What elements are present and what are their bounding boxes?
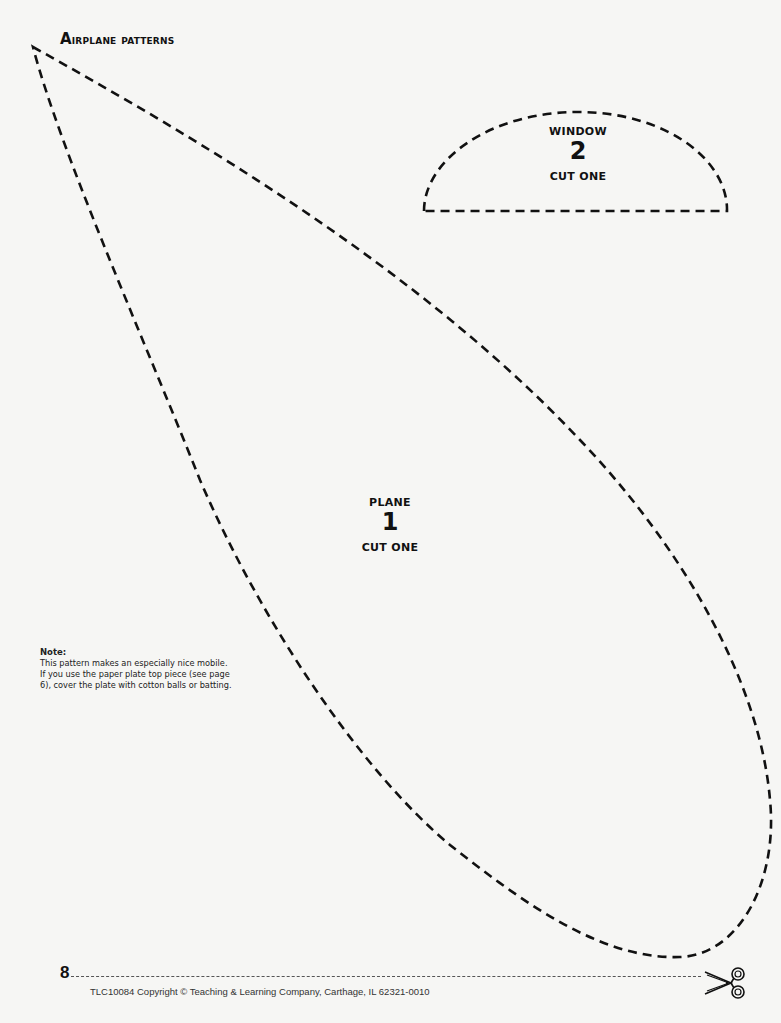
window-number: 2 bbox=[518, 138, 638, 164]
note-line: This pattern makes an especially nice mo… bbox=[40, 658, 270, 669]
plane-label: PLANE 1 CUT ONE bbox=[330, 496, 450, 554]
window-instruction: CUT ONE bbox=[518, 170, 638, 183]
plane-instruction: CUT ONE bbox=[330, 541, 450, 554]
copyright: TLC10084 Copyright © Teaching & Learning… bbox=[90, 986, 430, 997]
note: Note: This pattern makes an especially n… bbox=[40, 647, 270, 691]
note-title: Note: bbox=[40, 647, 270, 658]
window-label: WINDOW 2 CUT ONE bbox=[518, 125, 638, 183]
page-number: 8 bbox=[60, 963, 69, 983]
cut-line bbox=[71, 976, 701, 977]
plane-number: 1 bbox=[330, 509, 450, 535]
note-line: If you use the paper plate top piece (se… bbox=[40, 669, 270, 680]
note-line: 6), cover the plate with cotton balls or… bbox=[40, 680, 270, 691]
scissors-icon bbox=[703, 966, 749, 1000]
